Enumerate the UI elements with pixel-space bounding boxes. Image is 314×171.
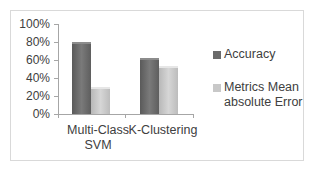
y-tick-label-60: 60%: [10, 54, 50, 66]
bar-kclustering-mae: [159, 66, 178, 114]
legend-label-accuracy: Accuracy: [224, 47, 275, 61]
y-tick: [54, 78, 58, 79]
x-tick: [125, 114, 126, 118]
y-tick-label-100: 100%: [10, 18, 50, 30]
x-axis-line: [58, 114, 194, 115]
legend-item-accuracy: Accuracy: [213, 47, 303, 62]
legend-swatch-accuracy-icon: [213, 51, 221, 59]
y-tick-label-20: 20%: [10, 90, 50, 102]
legend-swatch-mae-icon: [213, 84, 221, 92]
legend-label-mae: Metrics Mean absolute Error: [224, 80, 303, 109]
y-tick: [54, 42, 58, 43]
bar-kclustering-accuracy: [140, 58, 159, 114]
y-tick: [54, 24, 58, 25]
y-tick: [54, 96, 58, 97]
x-tick: [58, 114, 59, 118]
y-tick: [54, 60, 58, 61]
bar-multiclass-svm-mae: [91, 87, 110, 114]
y-tick-label-40: 40%: [10, 72, 50, 84]
y-axis-line: [58, 24, 59, 115]
legend-item-mae: Metrics Mean absolute Error: [213, 80, 303, 110]
y-tick-label-80: 80%: [10, 36, 50, 48]
x-category-label-kclustering: K-Clustering: [123, 123, 203, 138]
x-tick: [193, 114, 194, 118]
bar-multiclass-svm-accuracy: [72, 42, 91, 114]
legend: Accuracy Metrics Mean absolute Error: [213, 47, 303, 110]
y-tick-label-0: 0%: [10, 108, 50, 120]
